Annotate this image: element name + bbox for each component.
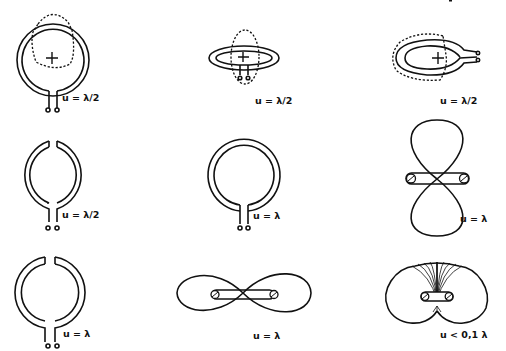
panel-r1c3: u = λ/2	[393, 34, 480, 106]
panel-label: u = λ/2	[440, 95, 477, 106]
panel-label: u = λ	[460, 213, 487, 224]
panel-r3c2: u = λ	[177, 274, 311, 341]
panel-r1c2: u = λ/2	[209, 30, 292, 106]
panel-r2c2: u = λ	[208, 139, 280, 230]
panel-label: u = λ	[253, 210, 280, 221]
panel-r2c1: u = λ/2	[25, 141, 100, 230]
panel-r2c3: u = λ	[406, 120, 487, 236]
panel-label: u = λ/2	[255, 95, 292, 106]
panel-label: u = λ/2	[62, 92, 99, 103]
panel-label: u = λ	[63, 328, 90, 339]
panel-r3c1: u = λ	[15, 257, 90, 348]
panel-label: u < 0,1 λ	[440, 329, 488, 340]
panel-label: u = λ/2	[62, 209, 99, 220]
cropped-mark	[449, 0, 452, 2]
panel-label: u = λ	[253, 330, 280, 341]
loop-antenna-diagram: u = λ/2 u = λ/2 u = λ/2 u = λ/2	[0, 0, 506, 351]
panel-r3c3: u < 0,1 λ	[386, 262, 488, 340]
panel-r1c1: u = λ/2	[17, 14, 99, 112]
